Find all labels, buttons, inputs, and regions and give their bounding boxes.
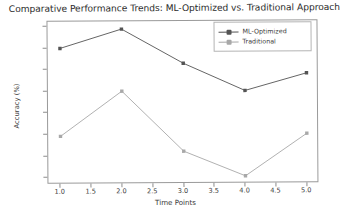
x-tick-mark xyxy=(91,184,92,188)
x-tick-mark xyxy=(183,183,184,187)
x-tick-label: 2.5 xyxy=(137,187,167,195)
data-point-marker xyxy=(182,149,185,152)
data-point-marker xyxy=(59,135,62,138)
x-tick-mark xyxy=(306,182,307,186)
x-tick-label: 3.0 xyxy=(168,187,198,195)
y-tick-mark xyxy=(43,155,47,156)
x-tick-mark xyxy=(214,183,215,187)
x-tick-label: 1.0 xyxy=(45,188,75,196)
x-tick-mark xyxy=(152,183,153,187)
data-point-marker xyxy=(244,174,247,177)
x-tick-mark xyxy=(60,184,61,188)
y-axis-label: Accuracy (%) xyxy=(13,66,21,146)
x-tick-mark xyxy=(275,182,276,186)
x-tick-label: 1.5 xyxy=(76,187,106,195)
y-axis xyxy=(0,0,349,1)
x-tick-label: 2.0 xyxy=(106,187,136,195)
data-point-marker xyxy=(243,89,246,92)
y-tick-mark xyxy=(43,112,47,113)
x-tick-mark xyxy=(245,183,246,187)
data-point-marker xyxy=(120,27,123,30)
x-axis-label: Time Points xyxy=(1,197,350,208)
x-tick-label: 4.5 xyxy=(260,186,290,194)
y-tick-mark xyxy=(43,69,47,70)
x-axis xyxy=(0,0,349,1)
data-point-marker xyxy=(305,131,308,134)
y-tick-mark xyxy=(42,26,46,27)
data-point-marker xyxy=(120,89,123,92)
series-line-1 xyxy=(60,90,307,177)
y-tick-mark xyxy=(43,91,47,92)
x-tick-label: 5.0 xyxy=(291,186,321,194)
legend-swatch-icon xyxy=(219,27,239,36)
y-tick-mark xyxy=(43,48,47,49)
x-tick-label: 3.5 xyxy=(199,187,229,195)
data-point-marker xyxy=(305,71,308,74)
chart-title: Comparative Performance Trends: ML-Optim… xyxy=(0,2,349,14)
data-point-marker xyxy=(182,61,185,64)
legend-label: Traditional xyxy=(243,37,276,45)
x-tick-label: 4.0 xyxy=(230,186,260,194)
chart-figure: Comparative Performance Trends: ML-Optim… xyxy=(0,0,350,216)
chart-legend: ML-OptimizedTraditional xyxy=(213,21,311,52)
y-tick-mark xyxy=(43,134,47,135)
legend-swatch-icon xyxy=(219,37,239,46)
legend-item-0: ML-Optimized xyxy=(219,26,306,37)
legend-label: ML-Optimized xyxy=(243,27,287,35)
y-tick-mark xyxy=(43,177,47,178)
x-tick-mark xyxy=(121,183,122,187)
data-point-marker xyxy=(58,47,61,50)
legend-item-1: Traditional xyxy=(219,36,306,47)
